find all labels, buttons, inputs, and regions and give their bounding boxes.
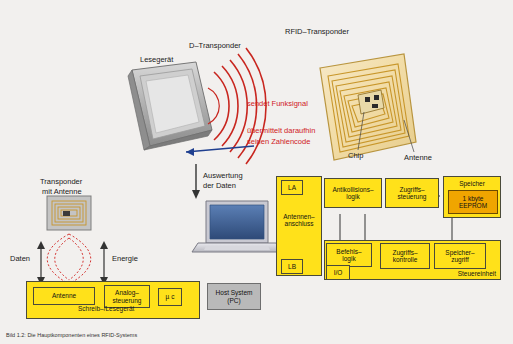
block-la[interactable]: LA bbox=[281, 180, 303, 195]
label-antenne-right: Antenne bbox=[404, 154, 432, 163]
label-auswertung-line1: Auswertung bbox=[203, 172, 243, 181]
coupling-field bbox=[47, 234, 91, 284]
label-sendet-funksignal: sendet Funksignal bbox=[247, 100, 308, 109]
block-befehlslogik[interactable]: Befehls– logik bbox=[326, 243, 372, 267]
laptop-illustration bbox=[192, 201, 282, 252]
label-chip: Chip bbox=[348, 152, 363, 161]
label-daten: Daten bbox=[10, 255, 30, 264]
reader-device-illustration bbox=[128, 62, 212, 150]
label-rfid-transponder: RFID–Transponder bbox=[285, 28, 349, 37]
block-zugriffskontrolle[interactable]: Zugriffs– kontrolle bbox=[380, 243, 430, 269]
rfid-transponder-card bbox=[320, 54, 416, 160]
block-lb[interactable]: LB bbox=[281, 259, 303, 274]
block-antenne[interactable]: Antenne bbox=[33, 287, 95, 305]
label-uebermittelt-line2: seinen Zahlencode bbox=[247, 138, 310, 147]
block-speicherzugriff[interactable]: Speicher– zugriff bbox=[434, 243, 486, 269]
energie-arrow bbox=[100, 241, 108, 285]
label-auswertung-line2: der Daten bbox=[203, 182, 236, 191]
block-antikollisionslogik[interactable]: Antikollisions– logik bbox=[324, 178, 382, 208]
daten-arrow bbox=[37, 241, 45, 285]
label-schreib-lesegeraet: Schreib–/Lesegerät bbox=[78, 305, 134, 312]
label-uebermittelt-line1: übermittelt daraufhin bbox=[247, 127, 315, 136]
block-host-system[interactable]: Host System (PC) bbox=[207, 283, 261, 310]
label-transponder-mit-antenne-line1: Transponder bbox=[40, 178, 82, 187]
label-transponder-mit-antenne-line2: mit Antenne bbox=[42, 188, 82, 197]
label-d-transponder: D–Transponder bbox=[189, 42, 241, 51]
block-eeprom[interactable]: 1 kbyte EEPROM bbox=[448, 190, 498, 214]
transponder-with-antenna-illustration bbox=[47, 196, 91, 230]
label-energie: Energie bbox=[112, 255, 138, 264]
figure-caption: Bild 1.2: Die Hauptkomponenten eines RFI… bbox=[6, 332, 137, 338]
figure-root: D–Transponder RFID–Transponder Lesegerät… bbox=[0, 0, 513, 344]
block-io[interactable]: I/O bbox=[326, 265, 350, 280]
block-mikrocontroller[interactable]: µ c bbox=[158, 288, 182, 306]
label-lesegeraet: Lesegerät bbox=[140, 56, 173, 65]
block-zugriffssteuerung[interactable]: Zugriffs– steuerung bbox=[385, 178, 439, 208]
